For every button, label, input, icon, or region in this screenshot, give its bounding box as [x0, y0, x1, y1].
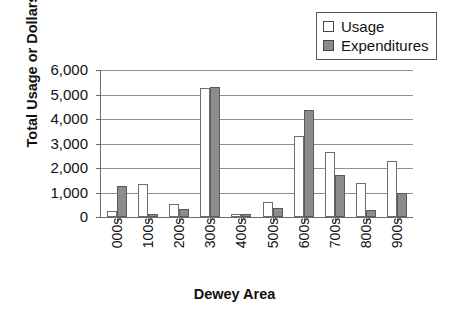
bar-group: 800s: [351, 70, 382, 217]
x-axis-label-200s: 200s: [172, 207, 186, 259]
bar-pair: [319, 70, 350, 217]
bar-group: 100s: [132, 70, 163, 217]
x-axis-label-300s: 300s: [203, 207, 217, 259]
bar-pair: [288, 70, 319, 217]
legend-label-usage: Usage: [341, 19, 384, 34]
y-axis-tick-label: 0: [0, 208, 88, 225]
bar-usage-300s: [200, 88, 210, 217]
bar-usage-600s: [294, 136, 304, 217]
bar-group: 700s: [319, 70, 350, 217]
x-axis-label-800s: 800s: [359, 207, 373, 259]
y-axis-tick-label: 5,000: [0, 86, 88, 103]
y-axis-tick-label: 1,000: [0, 184, 88, 201]
bar-pair: [351, 70, 382, 217]
plot-area: 000s100s200s300s400s500s600s700s800s900s: [100, 70, 413, 217]
usage-swatch-icon: [323, 21, 334, 32]
bar-expenditures-300s: [210, 87, 220, 217]
x-axis-label-500s: 500s: [266, 207, 280, 259]
bar-pair: [226, 70, 257, 217]
bar-pair: [382, 70, 413, 217]
expenditures-swatch-icon: [323, 40, 334, 51]
bar-group: 200s: [163, 70, 194, 217]
bar-chart: Usage Expenditures Total Usage or Dollar…: [0, 0, 469, 315]
y-axis-tick-label: 6,000: [0, 61, 88, 78]
bar-pair: [132, 70, 163, 217]
x-axis-label-900s: 900s: [390, 207, 404, 259]
bar-pair: [257, 70, 288, 217]
bar-pair: [101, 70, 132, 217]
bar-group: 400s: [226, 70, 257, 217]
x-axis-label-400s: 400s: [234, 207, 248, 259]
x-axis-label-100s: 100s: [141, 207, 155, 259]
bar-group: 000s: [101, 70, 132, 217]
legend-item-usage: Usage: [323, 17, 429, 36]
y-axis-tick-label: 3,000: [0, 135, 88, 152]
bar-group: 900s: [382, 70, 413, 217]
bar-groups: 000s100s200s300s400s500s600s700s800s900s: [101, 70, 413, 217]
x-axis-title: Dewey Area: [0, 286, 469, 302]
bar-expenditures-600s: [304, 110, 314, 217]
bar-group: 600s: [288, 70, 319, 217]
y-axis-tick-label: 4,000: [0, 110, 88, 127]
bar-pair: [163, 70, 194, 217]
x-axis-label-000s: 000s: [110, 207, 124, 259]
x-axis-label-600s: 600s: [297, 207, 311, 259]
legend-item-expenditures: Expenditures: [323, 36, 429, 55]
bar-group: 300s: [195, 70, 226, 217]
bar-pair: [195, 70, 226, 217]
x-axis-label-700s: 700s: [328, 207, 342, 259]
legend-label-expenditures: Expenditures: [341, 38, 429, 53]
y-axis-tick-label: 2,000: [0, 159, 88, 176]
bar-group: 500s: [257, 70, 288, 217]
chart-legend: Usage Expenditures: [316, 12, 437, 60]
